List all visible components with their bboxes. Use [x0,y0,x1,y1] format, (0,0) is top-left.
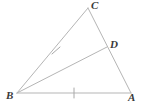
vertex-label-C: C [91,0,98,11]
vertex-label-A: A [128,92,135,103]
geometry-figure: C D B A [0,0,144,106]
vertex-label-B: B [6,90,13,101]
point-label-D: D [110,39,118,50]
segment-CA [88,8,131,93]
tick-on-BC-icon [52,47,60,54]
figure-canvas [0,0,144,106]
segment-BD [17,47,107,93]
segment-BC [17,8,88,93]
